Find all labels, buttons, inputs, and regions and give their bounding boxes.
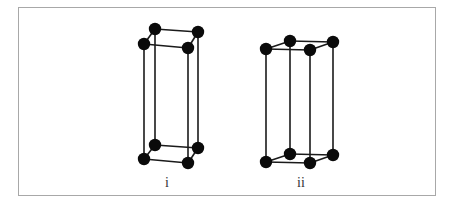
bond-line	[144, 44, 188, 48]
atom-sphere	[284, 148, 296, 160]
bond-line	[266, 49, 310, 50]
atom-sphere	[260, 156, 272, 168]
atom-sphere	[304, 44, 316, 56]
atom-sphere	[149, 23, 161, 35]
atom-sphere	[260, 43, 272, 55]
unit-cell-ii	[260, 35, 339, 169]
structure-label-i: i	[165, 175, 169, 191]
bond-line	[155, 29, 198, 32]
structure-label-ii: ii	[297, 175, 305, 191]
atom-sphere	[138, 153, 150, 165]
atom-sphere	[182, 42, 194, 54]
bond-line	[266, 162, 310, 163]
atom-sphere	[192, 142, 204, 154]
atom-sphere	[304, 157, 316, 169]
bond-line	[144, 159, 188, 163]
bond-line	[155, 145, 198, 148]
atom-sphere	[284, 35, 296, 47]
atom-sphere	[149, 139, 161, 151]
atom-sphere	[327, 149, 339, 161]
crystal-lattice-diagram	[0, 0, 455, 208]
atom-sphere	[192, 26, 204, 38]
atom-sphere	[182, 157, 194, 169]
atom-sphere	[138, 38, 150, 50]
unit-cell-i	[138, 23, 204, 169]
bond-line	[290, 41, 333, 42]
bond-line	[290, 154, 333, 155]
atom-sphere	[327, 36, 339, 48]
